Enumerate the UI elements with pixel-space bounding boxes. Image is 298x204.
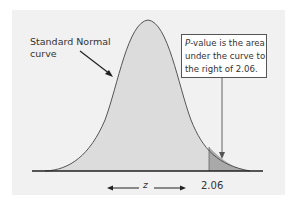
callout-line3: the right of 2.06. <box>185 63 263 76</box>
p-value-callout: P-value is the area under the curve to t… <box>181 34 267 78</box>
callout-line1: P-value is the area <box>185 37 263 50</box>
normal-curve-plot <box>0 0 298 204</box>
curve-label-line2: curve <box>30 48 111 60</box>
z-right-arrowhead-icon <box>180 186 186 191</box>
curve-label: Standard Normal curve <box>30 36 111 60</box>
tail-area <box>209 147 250 171</box>
callout-line2: under the curve to <box>185 50 263 63</box>
callout-line1-rest: -value is the area <box>190 38 265 48</box>
critical-value-label: 2.06 <box>201 180 223 191</box>
curve-label-line1: Standard Normal <box>30 36 111 48</box>
z-axis-label: z <box>143 180 148 190</box>
z-left-arrowhead-icon <box>107 186 113 191</box>
